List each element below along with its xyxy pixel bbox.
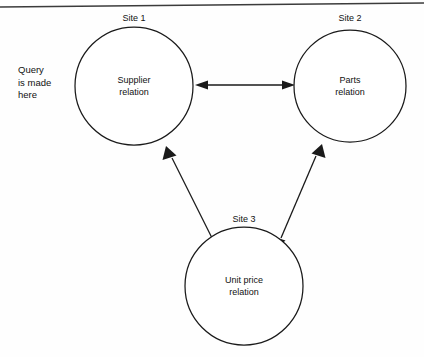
connector-site1-site3: [163, 146, 222, 250]
arrowhead-left: [195, 81, 208, 90]
node-text-site-2: Parts relation: [335, 74, 365, 98]
site-label-site-2: Site 2: [338, 13, 361, 24]
node-relation-line-1-site-3: Unit price: [225, 274, 263, 286]
query-note-line-2: is made: [18, 77, 51, 90]
query-note-line-1: Query: [18, 64, 51, 77]
query-note-line-3: here: [18, 89, 51, 102]
node-relation-line-1-site-2: Parts: [335, 74, 365, 86]
arrowhead-up-right: [312, 144, 326, 158]
node-text-site-1: Supplier relation: [117, 74, 150, 98]
node-relation-line-1-site-1: Supplier: [117, 74, 150, 86]
connector-site2-site3: [272, 144, 326, 250]
site-label-site-3: Site 3: [232, 214, 255, 225]
diagram-canvas: Query is made here Site 1 Supplier relat…: [0, 0, 424, 357]
page-top-rule: [0, 3, 424, 7]
site-label-site-1: Site 1: [122, 13, 145, 24]
node-relation-line-2-site-3: relation: [225, 286, 263, 298]
node-relation-line-2-site-1: relation: [117, 86, 150, 98]
node-relation-line-2-site-2: relation: [335, 86, 365, 98]
arrowhead-up-left: [163, 146, 177, 160]
diagram-vector-layer: [0, 0, 424, 357]
connector-site1-site2: [195, 81, 295, 90]
node-text-site-3: Unit price relation: [225, 274, 263, 298]
query-origin-note: Query is made here: [18, 64, 51, 102]
arrowhead-right: [282, 81, 295, 90]
